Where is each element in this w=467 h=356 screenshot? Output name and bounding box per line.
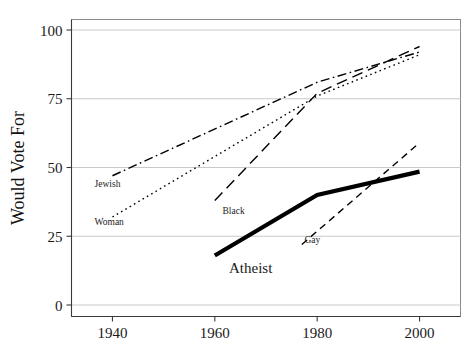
x-tick-label-2000: 2000 [405, 325, 435, 341]
series-label-woman: Woman [95, 217, 125, 227]
series-label-gay: Gay [304, 235, 320, 245]
y-axis-title: Would Vote For [8, 111, 28, 225]
series-label-jewish: Jewish [95, 179, 121, 189]
y-tick-label-75: 75 [48, 91, 63, 107]
chart-container: 0255075100 1940196019802000 JewishWomanB… [0, 0, 467, 356]
series-label-black: Black [222, 206, 244, 216]
y-tick-label-50: 50 [48, 160, 63, 176]
x-tick-label-1960: 1960 [200, 325, 230, 341]
y-tick-label-25: 25 [48, 229, 63, 245]
y-tick-label-100: 100 [40, 23, 63, 39]
would-vote-for-line-chart: 0255075100 1940196019802000 JewishWomanB… [0, 0, 467, 356]
y-tick-label-0: 0 [55, 298, 63, 314]
x-tick-label-1940: 1940 [97, 325, 127, 341]
series-label-atheist: Atheist [229, 260, 273, 276]
x-tick-label-1980: 1980 [302, 325, 332, 341]
